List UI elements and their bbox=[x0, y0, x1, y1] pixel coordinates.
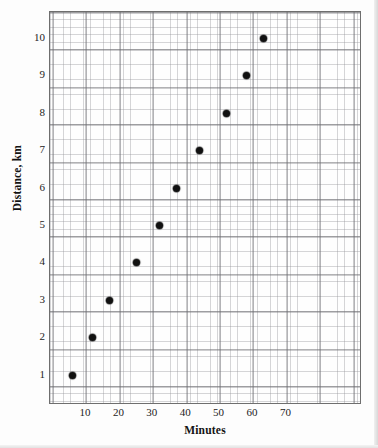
x-tick-label: 70 bbox=[265, 407, 305, 418]
data-point bbox=[260, 35, 267, 42]
data-point bbox=[106, 297, 113, 304]
x-axis-title: Minutes bbox=[49, 424, 361, 436]
scatter-plot-figure: 12345678910 10203040506070 Minutes Dista… bbox=[0, 0, 378, 448]
y-tick-label: 4 bbox=[5, 256, 45, 267]
data-point bbox=[243, 72, 250, 79]
y-tick-label: 10 bbox=[5, 32, 45, 43]
data-point bbox=[69, 372, 76, 379]
y-tick-label: 3 bbox=[5, 294, 45, 305]
y-tick-label: 8 bbox=[5, 107, 45, 118]
y-tick-label: 9 bbox=[5, 69, 45, 80]
data-points-layer bbox=[50, 12, 360, 403]
y-axis-title: Distance, km bbox=[11, 128, 23, 228]
data-point bbox=[223, 110, 230, 117]
data-point bbox=[89, 334, 96, 341]
y-tick-label: 2 bbox=[5, 331, 45, 342]
data-point bbox=[156, 222, 163, 229]
plot-area bbox=[49, 11, 361, 404]
data-point bbox=[133, 259, 140, 266]
y-tick-label: 1 bbox=[5, 369, 45, 380]
data-point bbox=[196, 147, 203, 154]
page-edge-right bbox=[374, 0, 378, 448]
data-point bbox=[173, 185, 180, 192]
